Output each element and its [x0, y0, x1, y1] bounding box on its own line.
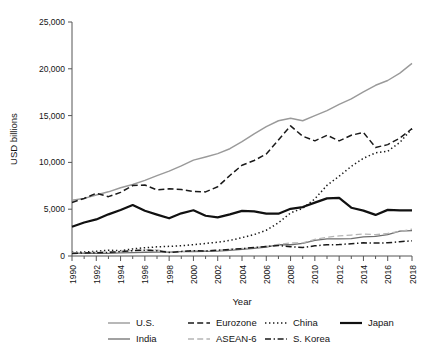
legend-label: ASEAN-6: [216, 333, 257, 344]
line-chart: 05,00010,00015,00020,00025,000 199019921…: [0, 0, 423, 357]
legend-label: China: [293, 317, 319, 328]
x-axis-title: Year: [232, 296, 251, 307]
legend-label: Eurozone: [216, 317, 257, 328]
legend-label: India: [136, 333, 157, 344]
y-tick-label: 25,000: [39, 17, 65, 27]
x-tick-label: 1996: [140, 265, 150, 284]
x-tick-label: 1998: [165, 265, 175, 284]
x-tick-label: 2010: [310, 265, 320, 284]
y-tick-label: 0: [60, 251, 65, 261]
x-tick-label: 2006: [262, 265, 272, 284]
chart-background: [0, 0, 423, 357]
y-tick-label: 10,000: [39, 157, 65, 167]
x-tick-label: 1990: [68, 265, 78, 284]
x-tick-label: 2014: [359, 265, 369, 284]
x-tick-label: 1992: [92, 265, 102, 284]
x-tick-label: 2018: [408, 265, 418, 284]
y-tick-label: 15,000: [39, 111, 65, 121]
chart-canvas: 05,00010,00015,00020,00025,000 199019921…: [0, 0, 423, 357]
y-axis-title: USD billions: [8, 113, 19, 165]
y-tick-label: 5,000: [44, 204, 66, 214]
x-tick-label: 1994: [116, 265, 126, 284]
y-tick-label: 20,000: [39, 64, 65, 74]
x-tick-label: 2004: [238, 265, 248, 284]
x-tick-label: 2002: [213, 265, 223, 284]
x-tick-label: 2008: [286, 265, 296, 284]
x-tick-label: 2016: [383, 265, 393, 284]
legend-label: U.S.: [136, 317, 154, 328]
x-tick-label: 2000: [189, 265, 199, 284]
legend-label: S. Korea: [293, 333, 331, 344]
legend-label: Japan: [368, 317, 394, 328]
x-tick-label: 2012: [335, 265, 345, 284]
